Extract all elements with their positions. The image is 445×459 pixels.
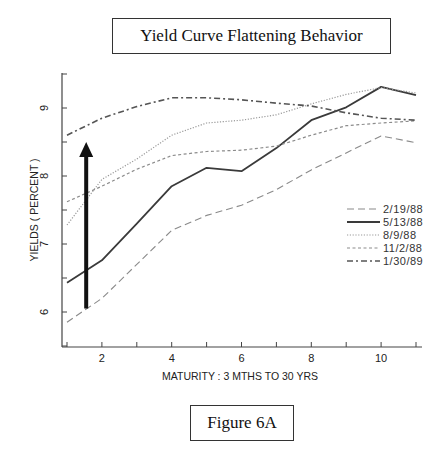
legend-item: 2/19/88 [347,203,423,215]
series-line-11-2-88 [67,121,416,202]
y-tick-label: 6 [38,309,50,315]
x-tick-label: 4 [169,352,175,364]
x-tick-label: 2 [99,352,105,364]
x-tick-label: 10 [375,352,387,364]
legend-item: 5/13/88 [347,216,423,228]
legend-item: 1/30/89 [347,255,423,267]
series-line-2-19-88 [67,136,416,322]
legend-label: 1/30/89 [383,255,423,267]
y-axis-label: YIELDS ( PERCENT ) [28,158,40,261]
yield-curve-chart: 6789246810 2/19/885/13/888/9/8811/2/881/… [0,0,445,459]
legend-item: 11/2/88 [347,242,422,254]
legend-item: 8/9/88 [347,229,417,241]
legend-label: 8/9/88 [383,229,417,241]
arrow-head [79,142,93,157]
up-arrow-annotation [79,142,93,309]
series-line-1-30-89 [67,98,416,135]
figure-label: Figure 6A [190,405,294,441]
legend-label: 5/13/88 [383,216,423,228]
series-line-8-9-88 [67,88,416,225]
axes: 6789246810 [38,73,422,364]
legend-label: 11/2/88 [383,242,422,254]
series-lines [67,87,416,322]
legend: 2/19/885/13/888/9/8811/2/881/30/89 [347,203,423,267]
x-tick-label: 6 [238,352,244,364]
x-tick-label: 8 [308,352,314,364]
legend-label: 2/19/88 [383,203,423,215]
y-tick-label: 9 [38,105,50,111]
x-axis-label: MATURITY : 3 MTHS TO 30 YRS [162,370,318,382]
